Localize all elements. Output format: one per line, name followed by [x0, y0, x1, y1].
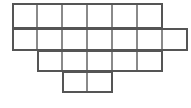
grid-figure-container	[0, 0, 191, 108]
grid-diagram	[0, 0, 191, 108]
